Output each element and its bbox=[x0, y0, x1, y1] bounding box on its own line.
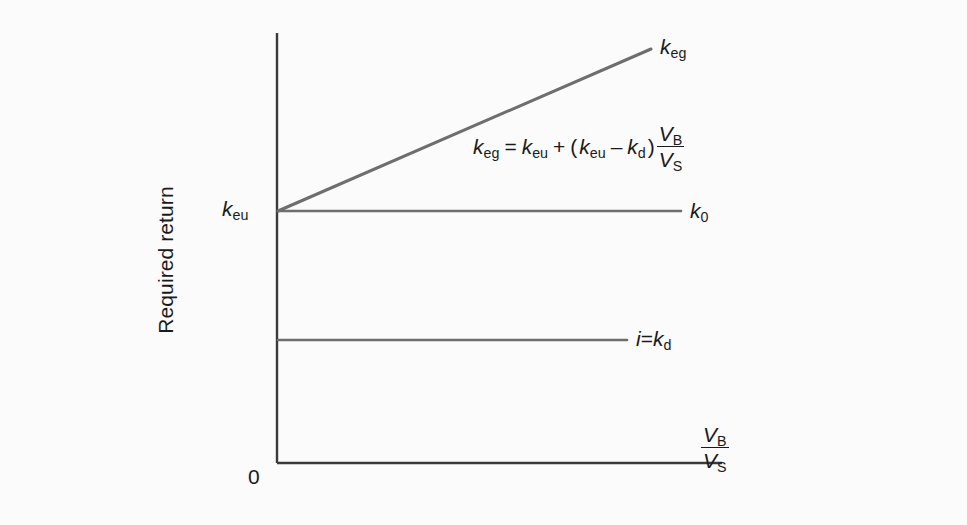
ikd-equals: = bbox=[641, 327, 653, 350]
eq-lhs: keg bbox=[473, 136, 499, 157]
series-label-ikd: i=kd bbox=[636, 328, 671, 349]
eq-fraction-denominator-symbol: V bbox=[659, 148, 673, 171]
eq-term2-subscript: eu bbox=[590, 145, 606, 161]
figure-container: Required return keu 0 keg k0 i=kd keg = … bbox=[0, 0, 967, 525]
eq-lhs-symbol: k bbox=[473, 135, 484, 158]
chart-plot-area bbox=[0, 0, 967, 525]
k0-symbol: k bbox=[690, 199, 701, 222]
eq-lhs-subscript: eg bbox=[484, 145, 500, 161]
eq-fraction-numerator: VB bbox=[657, 123, 685, 146]
y-tick-subscript: eu bbox=[233, 207, 249, 223]
eq-fraction-numerator-symbol: V bbox=[659, 122, 673, 145]
y-tick-label-keu: keu bbox=[222, 198, 248, 219]
eq-term1-symbol: k bbox=[522, 135, 533, 158]
ikd-subscript: d bbox=[663, 337, 671, 353]
eq-term3-symbol: k bbox=[627, 135, 638, 158]
series-label-keg: keg bbox=[660, 36, 686, 57]
y-tick-symbol: k bbox=[222, 197, 233, 220]
x-axis-denominator-symbol: V bbox=[703, 449, 717, 472]
eq-equals: = bbox=[504, 136, 516, 157]
x-axis-title: VB VS bbox=[700, 424, 730, 471]
x-axis-numerator: VB bbox=[701, 424, 729, 447]
eq-fraction-denominator: VS bbox=[657, 146, 685, 170]
k0-subscript: 0 bbox=[701, 209, 709, 225]
eq-term2: keu bbox=[579, 136, 605, 157]
keg-symbol: k bbox=[660, 35, 671, 58]
origin-label: 0 bbox=[248, 466, 260, 487]
eq-term1-subscript: eu bbox=[532, 145, 548, 161]
x-axis-denominator: VS bbox=[701, 447, 729, 471]
eq-plus: + bbox=[553, 136, 565, 157]
eq-open-paren: ( bbox=[570, 136, 577, 157]
x-axis-fraction: VB VS bbox=[701, 424, 729, 471]
keg-subscript: eg bbox=[671, 45, 687, 61]
eq-term1: keu bbox=[522, 136, 548, 157]
eq-fraction: VB VS bbox=[657, 123, 685, 170]
x-axis-numerator-symbol: V bbox=[703, 423, 717, 446]
eq-fraction-numerator-subscript: B bbox=[673, 132, 683, 148]
y-axis-title: Required return bbox=[155, 186, 176, 333]
series-label-k0: k0 bbox=[690, 200, 708, 221]
equation-annotation: keg = keu + ( keu – kd ) VB VS bbox=[472, 123, 685, 170]
eq-term2-symbol: k bbox=[579, 135, 590, 158]
eq-term3: kd bbox=[627, 136, 645, 157]
eq-term3-subscript: d bbox=[638, 145, 646, 161]
eq-minus: – bbox=[611, 136, 623, 157]
ikd-symbol: k bbox=[653, 327, 664, 350]
eq-close-paren: ) bbox=[648, 136, 655, 157]
eq-fraction-denominator-subscript: S bbox=[673, 158, 683, 174]
x-axis-denominator-subscript: S bbox=[717, 459, 727, 475]
x-axis-numerator-subscript: B bbox=[717, 433, 727, 449]
